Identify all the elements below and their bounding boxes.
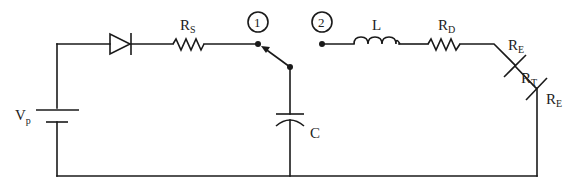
resistor-rd-icon — [428, 39, 460, 50]
switch-arm-icon[interactable] — [261, 46, 290, 67]
label-re2: RE — [546, 91, 562, 109]
wire-rd-re — [460, 44, 515, 65]
resistor-rs-icon — [173, 39, 204, 50]
label-c: C — [310, 125, 320, 141]
label-rt: RT — [521, 70, 537, 88]
battery-vp-icon — [36, 110, 79, 122]
circuit-diagram: Vp RS 1 2 C L RD RE RT RE — [0, 0, 572, 190]
label-re1: RE — [508, 37, 524, 55]
inductor-l-icon — [354, 37, 400, 44]
node-2-label: 2 — [318, 15, 325, 30]
label-vp: Vp — [15, 107, 31, 126]
node-1-label: 1 — [254, 15, 261, 30]
label-l: L — [372, 17, 381, 33]
label-rd: RD — [438, 17, 455, 35]
node-1-dot — [255, 41, 261, 47]
diode-icon — [110, 33, 131, 55]
label-rs: RS — [180, 17, 196, 35]
